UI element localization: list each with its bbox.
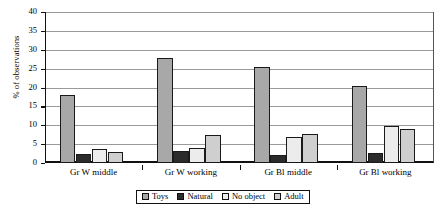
legend-swatch — [274, 193, 281, 200]
bar — [384, 126, 400, 163]
bar — [270, 155, 286, 163]
legend-label: No object — [232, 192, 265, 201]
x-axis-label: Gr W working — [142, 167, 239, 177]
bar — [76, 154, 92, 163]
y-tick-label: 40 — [29, 6, 38, 16]
bar — [286, 137, 302, 163]
y-axis-ticks: 0510152025303540 — [0, 12, 45, 163]
legend-swatch — [142, 193, 149, 200]
y-tick-label: 10 — [29, 119, 38, 129]
x-axis-label: Gr Bl working — [337, 167, 434, 177]
legend-label: Natural — [187, 192, 213, 201]
legend-item: Natural — [177, 192, 213, 201]
bar — [352, 86, 368, 163]
bar-group — [45, 12, 142, 163]
y-tick-mark — [41, 163, 45, 164]
x-axis-label: Gr W middle — [45, 167, 142, 177]
bar — [302, 134, 318, 163]
y-tick-label: 20 — [29, 82, 38, 92]
y-tick-label: 30 — [29, 44, 38, 54]
y-tick-label: 0 — [33, 157, 37, 167]
bar — [400, 129, 416, 163]
legend-item: Toys — [142, 192, 168, 201]
bar — [60, 95, 76, 163]
bar-group — [142, 12, 239, 163]
legend-swatch — [177, 193, 184, 200]
bar — [189, 148, 205, 163]
y-tick-label: 5 — [33, 138, 37, 148]
y-tick-label: 25 — [29, 63, 38, 73]
bars-layer — [45, 12, 434, 163]
x-axis-separator-tick — [142, 165, 143, 170]
legend-swatch — [222, 193, 229, 200]
bar — [108, 152, 124, 163]
y-tick-label: 15 — [29, 100, 38, 110]
legend-label: Toys — [152, 192, 168, 201]
bar — [173, 151, 189, 163]
bar — [157, 58, 173, 163]
x-axis-labels: Gr W middleGr W workingGr Bl middleGr Bl… — [45, 165, 434, 183]
legend-item: No object — [222, 192, 265, 201]
legend-item: Adult — [274, 192, 303, 201]
bar — [254, 67, 270, 163]
legend-label: Adult — [284, 192, 303, 201]
y-tick-label: 35 — [29, 25, 38, 35]
bar — [368, 153, 384, 163]
chart-legend: ToysNaturalNo objectAdult — [136, 190, 310, 204]
bar — [205, 135, 221, 163]
x-axis-separator-tick — [337, 165, 338, 170]
bar-group — [337, 12, 434, 163]
bar-chart: % of observations 0510152025303540 Gr W … — [0, 0, 446, 212]
x-axis-separator-tick — [240, 165, 241, 170]
bar-group — [240, 12, 337, 163]
x-axis-label: Gr Bl middle — [240, 167, 337, 177]
bar — [92, 149, 108, 163]
